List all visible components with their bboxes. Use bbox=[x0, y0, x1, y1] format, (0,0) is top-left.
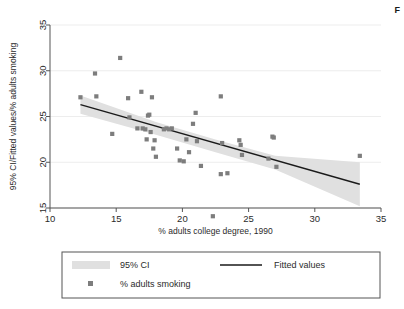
scatter-point bbox=[93, 71, 97, 75]
legend-label-ci: 95% CI bbox=[120, 260, 150, 270]
scatter-point bbox=[170, 126, 174, 130]
scatter-point bbox=[78, 95, 82, 99]
y-tick-label-30: 30 bbox=[37, 65, 48, 76]
scatter-point bbox=[184, 137, 188, 141]
scatter-point bbox=[211, 214, 215, 218]
scatter-point bbox=[135, 126, 139, 130]
y-tick-label-25: 25 bbox=[37, 111, 48, 122]
scatter-point bbox=[225, 171, 229, 175]
scatter-point bbox=[139, 90, 143, 94]
scatter-point bbox=[195, 139, 199, 143]
scatter-point bbox=[187, 150, 191, 154]
scatter-point bbox=[266, 156, 270, 160]
x-tick-label-25: 25 bbox=[243, 213, 254, 224]
legend-label-points: % adults smoking bbox=[120, 279, 191, 289]
scatter-point bbox=[220, 141, 224, 145]
legend-box bbox=[62, 252, 380, 298]
scatter-point bbox=[145, 137, 149, 141]
y-tick-label-15: 15 bbox=[37, 203, 48, 214]
scatter-point bbox=[219, 172, 223, 176]
x-tick-label-15: 15 bbox=[111, 213, 122, 224]
x-axis-title: % adults college degree, 1990 bbox=[158, 226, 273, 236]
scatter-point bbox=[239, 143, 243, 147]
x-tick-label-10: 10 bbox=[45, 213, 56, 224]
y-tick-label-20: 20 bbox=[37, 157, 48, 168]
scatter-point bbox=[127, 115, 131, 119]
legend-label-fitted: Fitted values bbox=[274, 260, 326, 270]
scatter-point bbox=[240, 153, 244, 157]
scatter-point bbox=[126, 96, 130, 100]
scatter-point bbox=[147, 113, 151, 117]
scatter-point bbox=[191, 122, 195, 126]
y-tick-label-35: 35 bbox=[37, 20, 48, 31]
scatter-point bbox=[150, 95, 154, 99]
scatter-point bbox=[182, 159, 186, 163]
y-axis-title: 95% CI/Fitted values/% adults smoking bbox=[8, 43, 18, 191]
scatter-point bbox=[199, 164, 203, 168]
scatter-point bbox=[219, 94, 223, 98]
x-tick-label-30: 30 bbox=[310, 213, 321, 224]
figure-container: F 1520253035101520253035% adults college… bbox=[0, 0, 404, 309]
scatter-point bbox=[194, 111, 198, 115]
scatter-point bbox=[175, 146, 179, 150]
scatter-point bbox=[178, 158, 182, 162]
scatter-point bbox=[154, 155, 158, 159]
scatter-point bbox=[149, 130, 153, 134]
x-tick-label-35: 35 bbox=[376, 213, 387, 224]
scatter-point bbox=[152, 138, 156, 142]
legend-swatch-points bbox=[88, 281, 93, 286]
scatter-point bbox=[151, 146, 155, 150]
scatter-point bbox=[143, 127, 147, 131]
scatter-plot-chart: 1520253035101520253035% adults college d… bbox=[0, 0, 404, 309]
scatter-point bbox=[272, 135, 276, 139]
scatter-point bbox=[274, 165, 278, 169]
legend-swatch-ci bbox=[72, 261, 110, 269]
scatter-point bbox=[237, 138, 241, 142]
scatter-point bbox=[110, 132, 114, 136]
x-tick-label-20: 20 bbox=[177, 213, 188, 224]
scatter-point bbox=[358, 154, 362, 158]
scatter-point bbox=[118, 56, 122, 60]
scatter-point bbox=[94, 94, 98, 98]
